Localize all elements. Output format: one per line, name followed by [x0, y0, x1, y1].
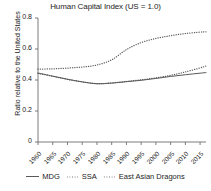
legend-item: MDG	[26, 172, 60, 181]
legend-label: SSA	[82, 172, 97, 181]
chart-figure: Human Capital Index (US = 1.0) Ratio rel…	[0, 0, 211, 191]
y-tick-label: 0.6	[12, 44, 32, 51]
legend-item: SSA	[66, 172, 97, 181]
chart-legend: MDGSSAEast Asian Dragons	[0, 172, 211, 181]
y-tick-label: 0.4	[12, 75, 32, 82]
legend-swatch-dotted	[66, 176, 79, 178]
legend-item: East Asian Dragons	[103, 172, 185, 181]
series-line	[38, 32, 206, 69]
legend-label: East Asian Dragons	[119, 172, 185, 181]
legend-swatch-dotted	[103, 176, 116, 178]
data-series	[38, 32, 206, 84]
axes	[35, 18, 206, 145]
legend-swatch-solid	[26, 176, 39, 177]
y-tick-label: 0.2	[12, 106, 32, 113]
legend-label: MDG	[42, 172, 60, 181]
y-tick-label: 0.8	[12, 13, 32, 20]
y-tick-label: 0	[12, 137, 32, 144]
